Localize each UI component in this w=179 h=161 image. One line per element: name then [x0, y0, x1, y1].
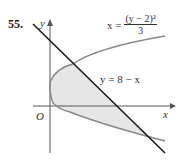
y-axis-arrow-icon: [47, 19, 53, 26]
line-equation-label: y = 8 − x: [100, 73, 140, 85]
x-axis-label: x: [163, 108, 168, 120]
origin-label: O: [36, 110, 44, 122]
parabola-equation-numerator: (y − 2)²: [124, 13, 156, 25]
problem-number: 55.: [8, 17, 23, 32]
parabola-equation-fraction: (y − 2)² 3: [124, 13, 156, 36]
parabola-equation-lhs: x =: [107, 19, 121, 31]
y-axis-label: y: [40, 17, 45, 29]
x-axis-arrow-icon: [170, 103, 176, 109]
parabola-equation-label: x = (y − 2)² 3: [107, 13, 157, 36]
parabola-equation-denominator: 3: [138, 25, 143, 36]
